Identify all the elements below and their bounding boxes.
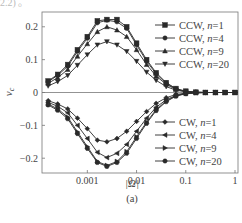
- legend-item: CW, n=1: [155, 117, 217, 128]
- y-axis-label: vc: [2, 87, 16, 96]
- y-tick-label: 0.1: [26, 54, 39, 65]
- line-chart: 0.20.10−0.1−0.2 0.0010.010.11 CCW, n=1CC…: [0, 0, 242, 223]
- y-tick-label: −0.2: [20, 153, 38, 164]
- legend-label: CCW, n=20: [179, 59, 229, 70]
- legend-label: CW, n=1: [179, 117, 217, 128]
- x-tick-label: 0.001: [76, 175, 99, 186]
- legend-item: CCW, n=9: [155, 46, 224, 57]
- x-axis-ticks: 0.0010.010.11: [76, 170, 237, 186]
- legend-cw: CW, n=1CW, n=4CW, n=9CW, n=20: [155, 117, 222, 167]
- legend-item: CCW, n=1: [155, 20, 224, 31]
- y-tick-label: 0.2: [26, 21, 39, 32]
- x-axis-label: |Ω|: [125, 177, 139, 189]
- legend-item: CW, n=9: [155, 143, 217, 154]
- x-tick-label: 0.1: [180, 175, 193, 186]
- legend-label: CW, n=9: [179, 143, 217, 154]
- y-axis-ticks: 0.20.10−0.1−0.2: [20, 21, 45, 163]
- legend-label: CCW, n=4: [179, 33, 224, 44]
- legend-label: CW, n=4: [179, 130, 217, 141]
- figure-caption: (a): [126, 193, 138, 205]
- legend-label: CCW, n=1: [179, 20, 224, 31]
- legend-label: CW, n=20: [179, 156, 222, 167]
- legend-label: CCW, n=9: [179, 46, 224, 57]
- y-tick-label: 0: [33, 87, 38, 98]
- y-tick-label: −0.1: [20, 120, 38, 131]
- legend-ccw: CCW, n=1CCW, n=4CCW, n=9CCW, n=20: [155, 20, 229, 70]
- x-tick-label: 1: [233, 175, 238, 186]
- legend-item: CCW, n=20: [155, 59, 229, 70]
- legend-item: CCW, n=4: [155, 33, 224, 44]
- legend-item: CW, n=4: [155, 130, 217, 141]
- legend-item: CW, n=20: [155, 156, 222, 167]
